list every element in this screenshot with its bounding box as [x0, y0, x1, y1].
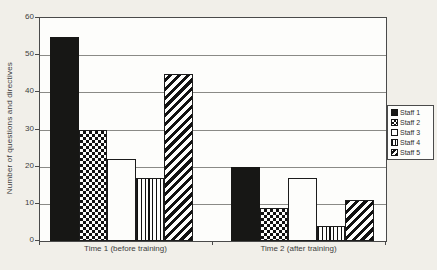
legend-label: Staff 1 [400, 109, 420, 116]
bar-staff-4-group-2 [317, 226, 346, 241]
y-tick-mark [35, 203, 39, 204]
legend-item: Staff 1 [391, 109, 430, 116]
y-tick-mark [35, 17, 39, 18]
legend-label: Staff 2 [400, 119, 420, 126]
bar-staff-1-group-1 [50, 37, 79, 241]
legend: Staff 1Staff 2Staff 3Staff 4Staff 5 [387, 105, 434, 160]
legend-item: Staff 4 [391, 139, 430, 146]
legend-label: Staff 4 [400, 139, 420, 146]
legend-label: Staff 3 [400, 129, 420, 136]
y-axis-title: Number of questions and directives [2, 17, 16, 240]
legend-swatch-staff-3 [391, 129, 398, 136]
y-tick-label: 30 [16, 125, 34, 133]
y-tick-label: 60 [16, 13, 34, 21]
legend-item: Staff 5 [391, 149, 430, 156]
y-tick-mark [35, 91, 39, 92]
legend-swatch-staff-2 [391, 119, 398, 126]
legend-item: Staff 3 [391, 129, 430, 136]
y-tick-mark [35, 166, 39, 167]
bar-staff-2-group-2 [260, 208, 289, 241]
legend-swatch-staff-1 [391, 109, 398, 116]
x-tick-mark [39, 241, 40, 245]
legend-swatch-staff-5 [391, 149, 398, 156]
gridline [40, 55, 386, 56]
x-category-label: Time 2 (after training) [260, 244, 336, 253]
legend-label: Staff 5 [400, 149, 420, 156]
plot-area [39, 17, 387, 242]
y-tick-label: 10 [16, 199, 34, 207]
chart-canvas: Number of questions and directives 01020… [0, 0, 437, 270]
bar-staff-4-group-1 [136, 178, 165, 241]
y-tick-label: 50 [16, 50, 34, 58]
x-tick-mark [385, 241, 386, 245]
bar-staff-3-group-2 [288, 178, 317, 241]
bar-staff-5-group-2 [345, 200, 374, 241]
y-tick-mark [35, 129, 39, 130]
y-tick-label: 0 [16, 236, 34, 244]
legend-item: Staff 2 [391, 119, 430, 126]
x-tick-mark [212, 241, 213, 245]
gridline [40, 92, 386, 93]
bar-staff-1-group-2 [231, 167, 260, 241]
y-axis-title-text: Number of questions and directives [5, 62, 14, 194]
x-category-label: Time 1 (before training) [84, 244, 167, 253]
y-tick-label: 40 [16, 87, 34, 95]
legend-swatch-staff-4 [391, 139, 398, 146]
y-tick-label: 20 [16, 162, 34, 170]
bar-staff-5-group-1 [164, 74, 193, 241]
y-tick-mark [35, 54, 39, 55]
bar-staff-2-group-1 [79, 130, 108, 242]
bar-staff-3-group-1 [107, 159, 136, 241]
